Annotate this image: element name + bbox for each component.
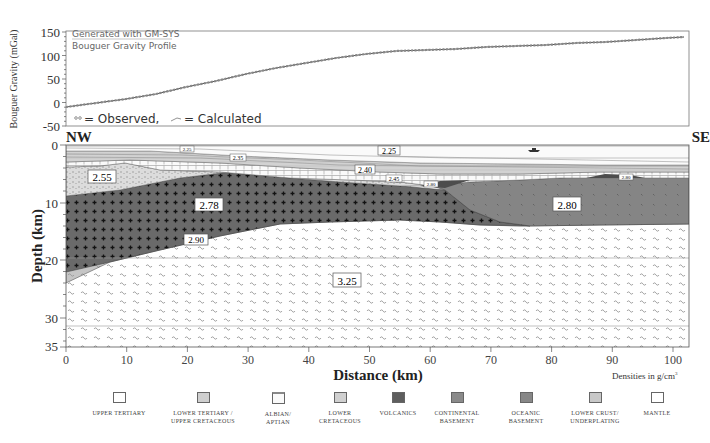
svg-text:60: 60 <box>424 353 436 367</box>
geologic-figure: 150 100 50 0 -50 Bouguer Gravity (mGal) … <box>0 0 710 443</box>
legend-item-lower-tertiary: LOWER TERTIARY / UPPER CRETACEOUS <box>158 392 248 425</box>
se-direction-label: SE <box>692 129 710 145</box>
density-label: 2.55 <box>88 170 116 183</box>
svg-text:20: 20 <box>181 353 193 367</box>
gravity-y-tick-labels: 150 100 50 0 -50 <box>41 25 61 134</box>
density-label: 2.40 <box>355 165 375 175</box>
density-label: 2.78 <box>195 198 223 211</box>
svg-text:80: 80 <box>546 353 558 367</box>
density-label: 2.90 <box>184 234 208 245</box>
gravity-panel: 150 100 50 0 -50 Bouguer Gravity (mGal) … <box>8 25 689 134</box>
svg-text:2.35: 2.35 <box>233 155 244 161</box>
legend-item-upper-tertiary: UPPER TERTIARY <box>74 392 164 417</box>
density-label: 2.80 <box>553 197 581 211</box>
software-note: Generated with GM-SYS <box>72 29 180 39</box>
svg-text:10: 10 <box>45 196 58 211</box>
lithology-legend: UPPER TERTIARY LOWER TERTIARY / UPPER CR… <box>0 392 710 442</box>
density-label: 2.45 <box>386 175 402 182</box>
density-label: 2.80 <box>619 174 633 180</box>
svg-text:0: 0 <box>52 138 59 153</box>
density-units-note: Densities in g/cm3 <box>612 371 678 381</box>
density-label: 2.25 <box>378 146 400 156</box>
density-label: 2.80 <box>424 181 438 187</box>
svg-text:70: 70 <box>485 353 497 367</box>
svg-text:10: 10 <box>121 353 133 367</box>
distance-axis-ticks <box>66 347 673 352</box>
density-label: 3.25 <box>333 273 361 287</box>
svg-text:50: 50 <box>364 353 376 367</box>
gravity-y-ticks <box>62 32 66 126</box>
gravity-y-axis-label: Bouguer Gravity (mGal) <box>8 30 20 129</box>
gravity-title: Bouguer Gravity Profile <box>72 41 177 51</box>
svg-text:2.55: 2.55 <box>92 171 112 183</box>
svg-text:40: 40 <box>303 353 315 367</box>
svg-text:2.40: 2.40 <box>358 166 372 175</box>
svg-text:90: 90 <box>606 353 618 367</box>
albian-aptian-swatch-icon <box>272 392 285 404</box>
depth-axis-ticks <box>60 145 66 347</box>
svg-text:100: 100 <box>664 353 682 367</box>
distance-tick-labels: 0 10 20 30 40 50 60 70 80 90 100 <box>63 353 682 367</box>
legend-item-albian-aptian: ALBIAN/ APTIAN <box>243 392 313 426</box>
svg-text:0: 0 <box>54 96 61 111</box>
distance-axis-label: Distance (km) <box>333 367 423 384</box>
svg-text:3.25: 3.25 <box>337 275 357 287</box>
mantle-swatch-icon <box>651 392 664 403</box>
svg-text:2.25: 2.25 <box>382 147 396 156</box>
svg-text:2.78: 2.78 <box>199 199 219 211</box>
legend-item-continental-basement: CONTINENTAL BASEMENT <box>417 392 497 425</box>
svg-text:30: 30 <box>242 353 254 367</box>
lower-cretaceous-swatch-icon <box>334 392 347 403</box>
svg-text:150: 150 <box>41 25 61 40</box>
svg-text:2.80: 2.80 <box>557 199 577 211</box>
depth-axis-label: Depth (km) <box>29 209 46 283</box>
continental-basement-swatch-icon <box>451 392 464 403</box>
upper-tertiary-swatch-icon <box>113 392 126 403</box>
svg-text:2.45: 2.45 <box>389 176 400 182</box>
nw-direction-label: NW <box>66 129 92 145</box>
depth-tick-labels: 0 10 20 30 35 <box>45 138 58 354</box>
svg-text:2.90: 2.90 <box>188 235 204 245</box>
legend-item-mantle: MANTLE <box>622 392 692 417</box>
volcanics-swatch-icon <box>392 392 405 403</box>
density-label: 2.25 <box>180 146 194 152</box>
legend-observed-label: = Observed, <box>84 112 159 126</box>
oceanic-basement-swatch-icon <box>520 392 533 403</box>
svg-text:2.25: 2.25 <box>183 147 192 152</box>
svg-text:0: 0 <box>63 353 69 367</box>
cross-section-panel: NW SE <box>29 129 710 384</box>
density-label: 2.35 <box>230 154 246 161</box>
svg-text:100: 100 <box>41 49 61 64</box>
svg-text:35: 35 <box>45 339 58 354</box>
legend-calculated-label: = Calculated <box>184 112 262 126</box>
lower-crust-swatch-icon <box>589 392 602 403</box>
lower-tertiary-swatch-icon <box>197 392 210 403</box>
svg-text:30: 30 <box>45 311 58 326</box>
svg-text:50: 50 <box>47 72 60 87</box>
svg-text:20: 20 <box>45 253 58 268</box>
svg-text:-50: -50 <box>43 119 60 134</box>
svg-text:2.80: 2.80 <box>622 175 631 180</box>
svg-text:2.80: 2.80 <box>427 182 436 187</box>
